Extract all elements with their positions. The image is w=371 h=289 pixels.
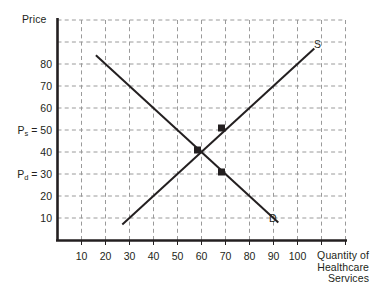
- pd-subscript: d: [24, 173, 28, 182]
- pd-value: = 30: [31, 168, 52, 180]
- ps-value: = 50: [31, 124, 52, 136]
- supply-demand-chart: Price Quantity of Healthcare Services: [0, 0, 371, 289]
- demand-curve-label: D: [269, 212, 277, 224]
- y-tick-label-40: 40: [6, 146, 52, 158]
- ps-base: P: [18, 124, 25, 136]
- ps-subscript: s: [25, 129, 29, 138]
- y-tick-label-10: 10: [6, 212, 52, 224]
- demand-point-marker: [218, 169, 225, 176]
- y-tick-label-60: 60: [6, 102, 52, 114]
- supply-point-marker: [218, 125, 225, 132]
- y-tick-label-80: 80: [6, 58, 52, 70]
- y-tick-label-pd-30: Pd = 30: [0, 168, 52, 180]
- y-tick-label-ps-50: Ps = 50: [0, 124, 52, 136]
- x-tick-label-100: 100: [283, 250, 312, 262]
- supply-curve-label: S: [314, 38, 321, 50]
- supply-curve: [122, 49, 314, 225]
- demand-curve: [96, 55, 278, 222]
- equilibrium-point-marker: [194, 147, 201, 154]
- y-tick-label-70: 70: [6, 80, 52, 92]
- y-tick-label-20: 20: [6, 190, 52, 202]
